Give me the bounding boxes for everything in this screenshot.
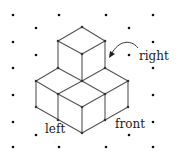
curved-arrow-icon bbox=[109, 42, 138, 58]
label-left: left bbox=[45, 122, 65, 136]
label-front: front bbox=[115, 117, 145, 131]
label-right: right bbox=[139, 49, 169, 63]
isometric-diagram: right left front bbox=[0, 0, 184, 163]
diagram-container: right left front bbox=[0, 0, 184, 163]
